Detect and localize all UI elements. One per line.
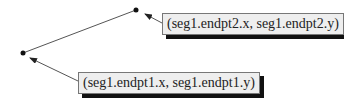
endpoint1-arrow: [30, 58, 78, 81]
endpoint2-dot: [134, 8, 139, 13]
endpoint1-dot: [21, 51, 26, 56]
endpoint2-label: (seg1.endpt2.x, seg1.endpt2.y): [162, 13, 344, 35]
endpoint2-arrow: [145, 14, 162, 23]
endpoint1-label: (seg1.endpt1.x, seg1.endpt1.y): [78, 72, 260, 94]
segment-line: [23, 10, 136, 53]
